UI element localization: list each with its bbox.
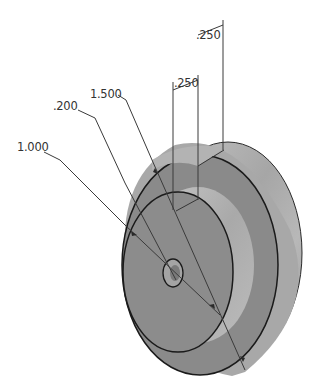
leader-1000 (44, 152, 125, 225)
dim-label-200: .200 (53, 99, 77, 113)
cad-drawing-canvas: 1.000 .200 1.500 .250 .250 (0, 0, 322, 382)
dimension-labels: 1.000 .200 1.500 .250 .250 (17, 28, 220, 154)
leader-1500 (118, 95, 152, 160)
dim-label-1500: 1.500 (90, 87, 121, 101)
dim-label-1000: 1.000 (17, 140, 48, 154)
dim-label-250-recess: .250 (174, 76, 198, 90)
dim-label-250-rim: .250 (196, 28, 220, 42)
part-body (122, 142, 302, 376)
